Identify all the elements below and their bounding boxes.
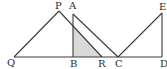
segment-qp — [14, 11, 59, 57]
label-e: E — [159, 1, 166, 12]
label-b: B — [70, 58, 77, 69]
label-q: Q — [7, 57, 15, 68]
label-d: D — [160, 58, 167, 69]
segment-ce — [118, 13, 162, 57]
label-c: C — [115, 58, 123, 69]
diagram-canvas: Q P A B R C D E — [0, 0, 167, 69]
label-a: A — [68, 0, 77, 11]
label-p: P — [55, 0, 62, 11]
label-r: R — [98, 58, 106, 69]
geometry-diagram: Q P A B R C D E — [0, 0, 167, 69]
